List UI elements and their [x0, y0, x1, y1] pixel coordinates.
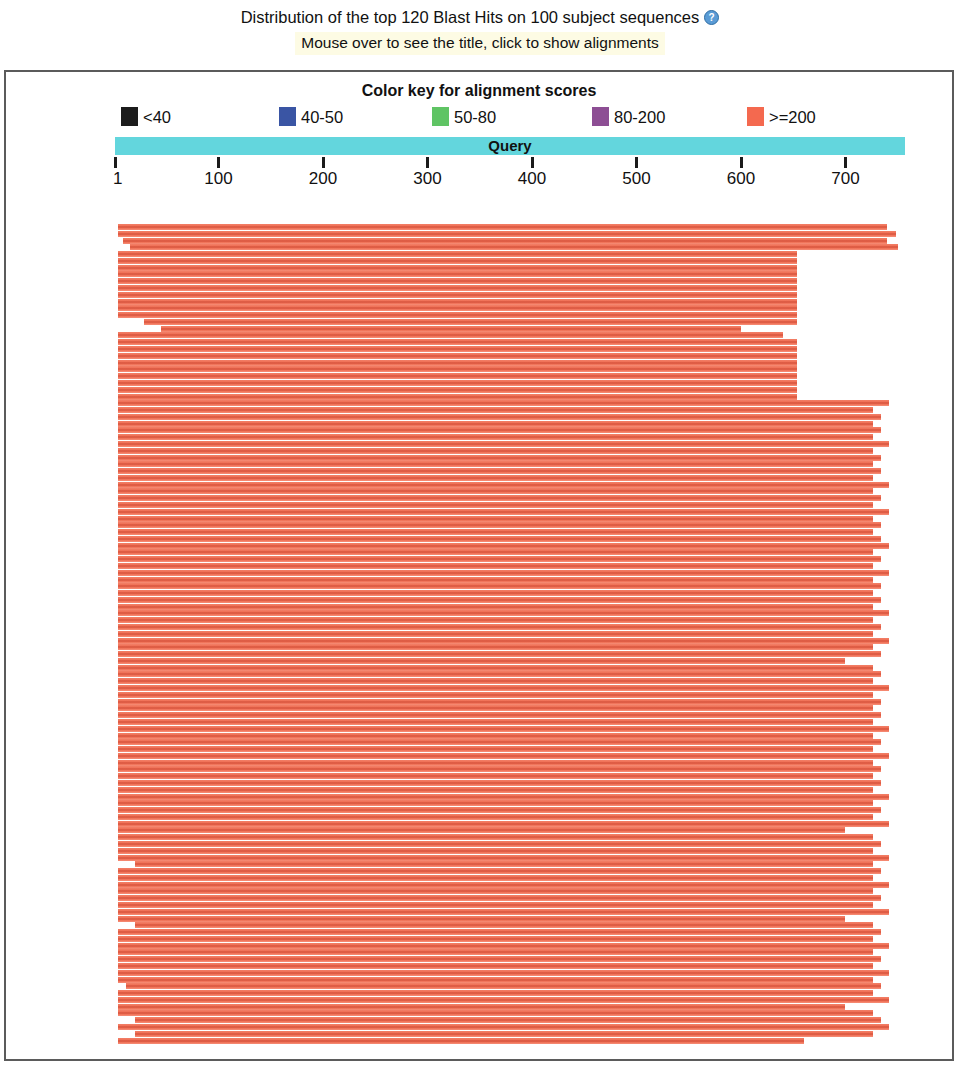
hit-bar[interactable]	[118, 746, 872, 752]
hit-bar[interactable]	[118, 366, 797, 372]
hit-bar[interactable]	[118, 807, 881, 813]
hit-bar[interactable]	[118, 556, 881, 562]
hit-bar[interactable]	[118, 733, 872, 739]
hit-bar[interactable]	[118, 543, 889, 549]
hit-bar[interactable]	[118, 414, 881, 420]
hit-bar[interactable]	[118, 855, 889, 861]
hit-bar[interactable]	[118, 970, 889, 976]
hit-bar[interactable]	[118, 380, 797, 386]
query-sequence-bar[interactable]: Query	[115, 137, 905, 155]
hit-bar[interactable]	[118, 841, 881, 847]
hit-bar[interactable]	[118, 868, 881, 874]
hit-bar[interactable]	[118, 617, 872, 623]
hit-bar[interactable]	[118, 665, 872, 671]
hit-bar[interactable]	[118, 224, 887, 230]
hit-bar[interactable]	[118, 346, 797, 352]
hit-bar[interactable]	[118, 509, 889, 515]
hit-bar[interactable]	[118, 1038, 804, 1044]
hit-bar[interactable]	[118, 766, 881, 772]
hit-bar[interactable]	[118, 875, 872, 881]
hit-bar[interactable]	[135, 861, 873, 867]
hit-bar[interactable]	[118, 631, 872, 637]
hit-bar[interactable]	[118, 468, 881, 474]
hit-bar[interactable]	[118, 387, 797, 393]
legend-item-50-80[interactable]: 50-80	[432, 107, 496, 127]
hit-bar[interactable]	[161, 326, 741, 332]
hit-bar[interactable]	[118, 590, 872, 596]
hit-bar[interactable]	[118, 522, 881, 528]
hit-bar[interactable]	[118, 895, 881, 901]
legend-item-40-50[interactable]: 40-50	[279, 107, 343, 127]
hit-bar[interactable]	[135, 1031, 873, 1037]
hit-bar[interactable]	[118, 231, 895, 237]
hit-bar[interactable]	[130, 244, 898, 250]
hit-bar[interactable]	[118, 658, 845, 664]
hit-bar[interactable]	[118, 502, 872, 508]
hit-bar[interactable]	[118, 1004, 845, 1010]
hit-bar[interactable]	[126, 983, 880, 989]
hit-bar[interactable]	[118, 705, 872, 711]
hit-bar[interactable]	[135, 1017, 881, 1023]
hit-bar[interactable]	[118, 739, 881, 745]
hit-bar[interactable]	[118, 373, 797, 379]
hit-bar[interactable]	[118, 882, 889, 888]
hit-bar[interactable]	[118, 482, 889, 488]
hit-bar[interactable]	[118, 461, 872, 467]
hit-bar[interactable]	[118, 529, 872, 535]
hit-bar[interactable]	[118, 360, 797, 366]
hit-bar[interactable]	[118, 800, 872, 806]
hit-bar[interactable]	[118, 604, 872, 610]
hit-bar[interactable]	[118, 936, 872, 942]
hit-bar[interactable]	[118, 651, 881, 657]
hit-bar[interactable]	[118, 299, 797, 305]
hit-bar[interactable]	[118, 292, 797, 298]
hit-bar[interactable]	[118, 1010, 872, 1016]
hit-bar[interactable]	[118, 516, 872, 522]
hit-bar[interactable]	[118, 692, 872, 698]
hit-bar[interactable]	[118, 597, 881, 603]
hit-bar[interactable]	[118, 678, 872, 684]
hit-bar[interactable]	[118, 271, 797, 277]
hit-bar[interactable]	[118, 719, 872, 725]
hit-bar[interactable]	[118, 305, 797, 311]
hit-bar[interactable]	[118, 821, 889, 827]
hit-bar[interactable]	[135, 922, 873, 928]
legend-item-80-200[interactable]: 80-200	[592, 107, 665, 127]
hit-bar[interactable]	[118, 888, 872, 894]
hit-bar[interactable]	[118, 916, 845, 922]
hit-bar[interactable]	[118, 577, 872, 583]
hit-bar[interactable]	[118, 726, 889, 732]
hit-bar[interactable]	[118, 780, 881, 786]
hit-bar[interactable]	[118, 455, 881, 461]
hit-bar[interactable]	[118, 929, 881, 935]
hit-bar[interactable]	[118, 794, 889, 800]
hit-bar[interactable]	[118, 760, 872, 766]
hit-bar[interactable]	[118, 909, 889, 915]
hit-bar[interactable]	[118, 570, 889, 576]
hit-bar[interactable]	[118, 407, 872, 413]
hit-bar[interactable]	[118, 441, 889, 447]
legend-item-lt40[interactable]: <40	[121, 107, 171, 127]
hit-bar[interactable]	[118, 448, 872, 454]
hit-bar[interactable]	[118, 827, 845, 833]
hit-bar[interactable]	[118, 624, 881, 630]
hit-bar[interactable]	[118, 834, 872, 840]
hit-bar[interactable]	[144, 319, 797, 325]
hit-bar[interactable]	[118, 488, 872, 494]
hit-bar[interactable]	[118, 475, 872, 481]
hit-bar[interactable]	[118, 699, 881, 705]
hit-bar[interactable]	[118, 265, 797, 271]
hit-bar[interactable]	[118, 990, 872, 996]
question-mark-circle-icon[interactable]: ?	[704, 8, 719, 23]
hit-bar[interactable]	[118, 997, 889, 1003]
hit-bar[interactable]	[118, 549, 872, 555]
hit-bar[interactable]	[118, 421, 872, 427]
hit-bar[interactable]	[118, 400, 889, 406]
legend-item-gte200[interactable]: >=200	[747, 107, 816, 127]
hit-bar[interactable]	[118, 285, 797, 291]
hit-bar[interactable]	[118, 278, 797, 284]
hit-bar[interactable]	[118, 251, 797, 257]
hit-bar[interactable]	[118, 712, 881, 718]
hit-bar[interactable]	[118, 495, 881, 501]
hit-bar[interactable]	[118, 814, 872, 820]
